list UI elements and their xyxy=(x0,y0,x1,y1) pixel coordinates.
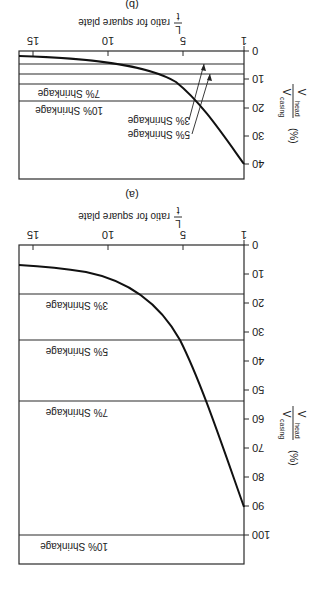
panel-b-y-tick-labels: 0 10 20 30 40 xyxy=(252,45,264,170)
panel-a-label-3pct: 3% Shrinkage xyxy=(45,300,108,311)
panel-b-caption: (b) xyxy=(125,0,138,11)
panel-b: 0 10 20 30 40 1 5 10 15 7% Shrinkage 10%… xyxy=(19,0,307,179)
svg-text:V: V xyxy=(296,411,307,418)
y-tick-label: 20 xyxy=(252,102,264,114)
svg-text:V: V xyxy=(281,89,292,96)
y-tick-label: 90 xyxy=(252,500,264,512)
panel-a-label-10pct: 10% Shrinkage xyxy=(40,541,108,552)
panel-b-x-tick-labels: 1 5 10 15 xyxy=(27,35,247,47)
svg-text:V: V xyxy=(296,89,307,96)
y-tick-label: 30 xyxy=(252,130,264,142)
y-tick-label: 0 xyxy=(252,239,258,251)
svg-text:head: head xyxy=(294,423,301,439)
svg-text:t: t xyxy=(176,11,179,22)
panel-b-arrow-5pct xyxy=(192,74,212,134)
panel-b-y-axis-label: V head V casing (%) xyxy=(278,84,307,144)
svg-text:head: head xyxy=(294,101,301,117)
svg-text:ratio for square plate: ratio for square plate xyxy=(78,17,170,28)
y-tick-label: 10 xyxy=(252,73,264,85)
y-tick-label: 40 xyxy=(252,158,264,170)
x-tick-label: 1 xyxy=(241,35,247,47)
y-tick-label: 70 xyxy=(252,442,264,454)
x-tick-label: 10 xyxy=(102,229,114,241)
panel-a-y-tick-labels: 0 10 20 30 40 50 60 70 80 90 100 xyxy=(252,239,270,541)
panel-a-y-ticks xyxy=(244,245,249,535)
y-tick-label: 100 xyxy=(252,529,270,541)
svg-text:t: t xyxy=(176,205,179,216)
svg-text:ratio for square plate: ratio for square plate xyxy=(78,211,170,222)
y-tick-label: 0 xyxy=(252,45,258,57)
svg-text:casing: casing xyxy=(278,419,286,439)
panel-a-y-axis-label: V head V casing (%) xyxy=(278,406,307,466)
svg-text:L: L xyxy=(175,218,181,229)
y-tick-label: 40 xyxy=(252,355,264,367)
y-tick-label: 80 xyxy=(252,471,264,483)
panel-a-x-axis-label: L t ratio for square plate xyxy=(78,205,182,229)
x-tick-label: 15 xyxy=(27,35,39,47)
x-tick-label: 1 xyxy=(241,229,247,241)
panel-a-label-5pct: 5% Shrinkage xyxy=(45,346,108,357)
panel-b-x-axis-label: L t ratio for square plate xyxy=(78,11,182,35)
y-tick-label: 50 xyxy=(252,384,264,396)
svg-text:V: V xyxy=(281,411,292,418)
y-tick-label: 20 xyxy=(252,297,264,309)
panel-b-label-7pct: 7% Shrinkage xyxy=(37,88,100,99)
panel-b-label-5pct: 5% Shrinkage xyxy=(127,129,190,140)
x-tick-label: 10 xyxy=(102,35,114,47)
panel-a-x-tick-labels: 1 5 10 15 xyxy=(27,229,247,241)
panel-a-caption: (a) xyxy=(125,189,138,201)
x-tick-label: 5 xyxy=(180,229,186,241)
figure-rotated-180: 0 10 20 30 40 50 60 70 80 90 100 1 5 10 … xyxy=(0,0,316,592)
svg-text:L: L xyxy=(175,24,181,35)
panel-a-label-7pct: 7% Shrinkage xyxy=(45,407,108,418)
y-tick-label: 60 xyxy=(252,413,264,425)
panel-b-y-ticks xyxy=(244,51,249,164)
panel-b-arrow-3pct xyxy=(189,64,206,120)
panel-a-frame xyxy=(19,245,244,564)
x-tick-label: 5 xyxy=(180,35,186,47)
panel-b-label-10pct: 10% Shrinkage xyxy=(35,105,103,116)
chart-svg: 0 10 20 30 40 50 60 70 80 90 100 1 5 10 … xyxy=(0,0,316,592)
panel-a: 0 10 20 30 40 50 60 70 80 90 100 1 5 10 … xyxy=(19,189,307,564)
svg-text:(%): (%) xyxy=(288,128,299,144)
svg-text:casing: casing xyxy=(278,97,286,117)
panel-b-label-3pct: 3% Shrinkage xyxy=(127,115,190,126)
x-tick-label: 15 xyxy=(27,229,39,241)
y-tick-label: 10 xyxy=(252,268,264,280)
svg-text:(%): (%) xyxy=(288,450,299,466)
y-tick-label: 30 xyxy=(252,326,264,338)
